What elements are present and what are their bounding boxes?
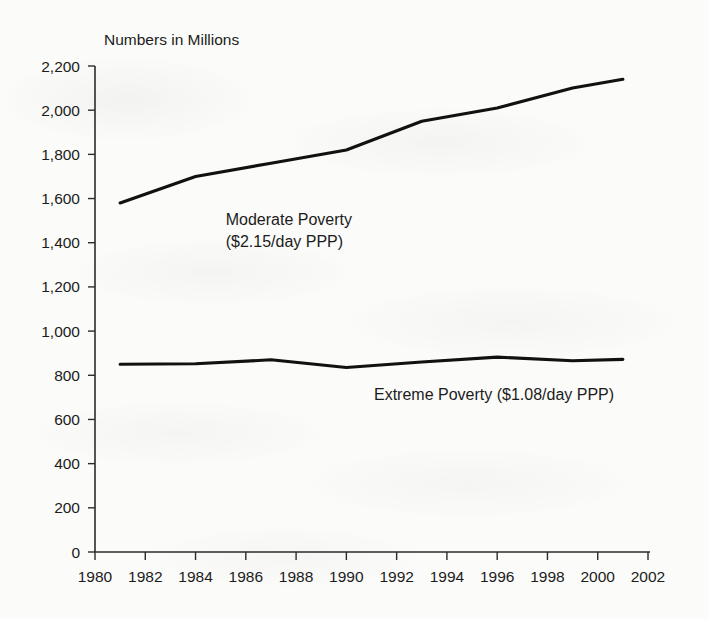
x-tick-label: 1986 (229, 568, 263, 585)
y-tick-label: 1,800 (41, 146, 80, 163)
x-axis-ticks (95, 552, 648, 560)
data-series-group (120, 79, 623, 367)
x-tick-label: 1982 (128, 568, 162, 585)
y-tick-label: 1,400 (41, 234, 80, 251)
y-tick-label: 2,000 (41, 102, 80, 119)
x-axis-tick-labels: 1980198219841986198819901992199419961998… (78, 568, 665, 585)
x-tick-label: 1980 (78, 568, 113, 585)
series-line-extreme-poverty (120, 357, 623, 367)
chart-container: Numbers in Millions 02004006008001,0001,… (0, 0, 709, 619)
line-chart-plot: Numbers in Millions 02004006008001,0001,… (0, 0, 709, 619)
x-tick-label: 1994 (430, 568, 465, 585)
y-axis-tick-labels: 02004006008001,0001,2001,4001,6001,8002,… (41, 58, 80, 561)
series-line-moderate-poverty (120, 79, 623, 203)
x-tick-label: 1990 (329, 568, 364, 585)
series-annotation-group: Moderate Poverty($2.15/day PPP)Extreme P… (226, 211, 614, 403)
series-label-extreme-poverty: Extreme Poverty ($1.08/day PPP) (374, 386, 614, 403)
y-tick-label: 1,200 (41, 278, 80, 295)
x-tick-label: 2002 (631, 568, 665, 585)
series-label-moderate-poverty: Moderate Poverty (226, 211, 352, 228)
y-tick-label: 400 (54, 455, 80, 472)
x-tick-label: 1996 (480, 568, 514, 585)
y-tick-label: 2,200 (41, 58, 80, 75)
x-tick-label: 1992 (379, 568, 413, 585)
y-tick-label: 800 (54, 367, 80, 384)
x-tick-label: 2000 (580, 568, 615, 585)
series-label-moderate-poverty-line2: ($2.15/day PPP) (226, 233, 343, 250)
y-axis-title: Numbers in Millions (104, 31, 239, 48)
x-tick-label: 1984 (178, 568, 213, 585)
x-tick-label: 1988 (279, 568, 313, 585)
x-tick-label: 1998 (530, 568, 564, 585)
y-axis-ticks (88, 66, 95, 552)
y-tick-label: 0 (71, 544, 80, 561)
y-tick-label: 200 (54, 499, 80, 516)
y-tick-label: 600 (54, 411, 80, 428)
y-tick-label: 1,600 (41, 190, 80, 207)
y-tick-label: 1,000 (41, 323, 80, 340)
